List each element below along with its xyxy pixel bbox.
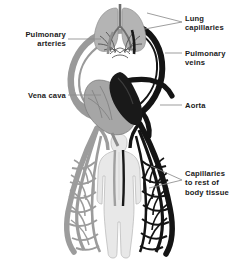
label-lung-capillaries: Lung capillaries bbox=[185, 14, 235, 33]
label-pulmonary-veins: Pulmonary veins bbox=[185, 49, 235, 68]
label-pulmonary-arteries: Pulmonary arteries bbox=[4, 30, 66, 49]
label-vena-cava: Vena cava bbox=[4, 91, 66, 100]
label-body-capillaries: Capillaries to rest of body tissue bbox=[185, 169, 236, 197]
label-aorta: Aorta bbox=[185, 101, 235, 110]
